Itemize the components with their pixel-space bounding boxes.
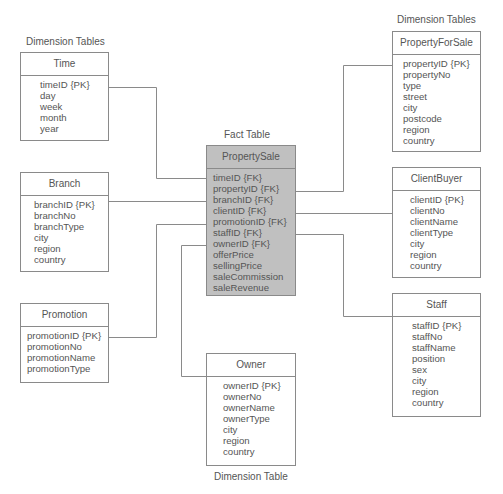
attribute: city (223, 424, 295, 435)
owner-relationship-line (182, 246, 207, 377)
attribute: ownerID {PK} (223, 380, 295, 391)
attribute: position (412, 353, 480, 364)
attribute: promotionID {PK} (27, 330, 108, 341)
attribute: promotionName (27, 352, 108, 363)
time-relationship-line (109, 88, 207, 179)
attribute: clientName (410, 216, 480, 227)
entity-title: PropertyForSale (393, 32, 480, 55)
attribute: city (403, 102, 480, 113)
attribute: branchNo (34, 210, 108, 221)
attribute: street (403, 91, 480, 102)
entity-title: Owner (207, 354, 295, 377)
attribute: region (412, 386, 480, 397)
fact-table-label: Fact Table (224, 129, 270, 140)
entity-title: Staff (393, 294, 480, 317)
attribute: sellingPrice (213, 260, 295, 271)
attribute: postcode (403, 113, 480, 124)
entity-staff[interactable]: Staff staffID {PK} staffNo staffName pos… (392, 293, 481, 417)
attribute: ownerID {FK} (213, 238, 295, 249)
attribute: promotionID {FK} (213, 216, 295, 227)
attribute: offerPrice (213, 249, 295, 260)
attribute: promotionNo (27, 341, 108, 352)
entity-title: PropertySale (207, 146, 295, 169)
attribute: clientID {FK} (213, 205, 295, 216)
attribute: year (40, 123, 108, 134)
attribute: clientNo (410, 205, 480, 216)
attribute: sex (412, 364, 480, 375)
entity-title: Time (21, 53, 108, 76)
entity-time[interactable]: Time timeID {PK} day week month year (20, 52, 109, 141)
attribute: country (223, 446, 295, 457)
entity-client-buyer[interactable]: ClientBuyer clientID {PK} clientNo clien… (392, 167, 481, 278)
attribute: propertyNo (403, 69, 480, 80)
attribute: city (410, 238, 480, 249)
attribute: saleCommission (213, 271, 295, 282)
attribute: propertyID {PK} (403, 58, 480, 69)
dimension-tables-label-right: Dimension Tables (397, 14, 476, 25)
attribute: staffID {FK} (213, 227, 295, 238)
staff-relationship-line (295, 235, 392, 317)
attribute: week (40, 101, 108, 112)
attribute: saleRevenue (213, 282, 295, 293)
attribute: month (40, 112, 108, 123)
attribute: timeID {PK} (40, 79, 108, 90)
dimension-tables-label-left: Dimension Tables (26, 36, 105, 47)
entity-title: ClientBuyer (393, 168, 480, 191)
entity-property-for-sale[interactable]: PropertyForSale propertyID {PK} property… (392, 31, 481, 152)
attribute: day (40, 90, 108, 101)
attribute: country (403, 135, 480, 146)
entity-title: Promotion (21, 304, 108, 327)
dimension-table-label-bottom: Dimension Table (214, 471, 288, 482)
attribute: region (410, 249, 480, 260)
attribute: clientType (410, 227, 480, 238)
attribute: staffName (412, 342, 480, 353)
attribute: region (223, 435, 295, 446)
promotion-relationship-line (109, 225, 207, 338)
attribute: propertyID {FK} (213, 183, 295, 194)
attribute: country (412, 397, 480, 408)
attribute: staffID {PK} (412, 320, 480, 331)
attribute: timeID {FK} (213, 172, 295, 183)
entity-promotion[interactable]: Promotion promotionID {PK} promotionNo p… (20, 303, 109, 383)
attribute: ownerName (223, 402, 295, 413)
attribute: country (410, 260, 480, 271)
attribute: region (34, 243, 108, 254)
attribute: ownerType (223, 413, 295, 424)
property-relationship-line (295, 66, 392, 192)
attribute: city (34, 232, 108, 243)
attribute: staffNo (412, 331, 480, 342)
attribute: branchType (34, 221, 108, 232)
attribute: promotionType (27, 363, 108, 374)
attribute: branchID {PK} (34, 199, 108, 210)
attribute: region (403, 124, 480, 135)
attribute: city (412, 375, 480, 386)
attribute: ownerNo (223, 391, 295, 402)
attribute: clientID {PK} (410, 194, 480, 205)
attribute: type (403, 80, 480, 91)
attribute: country (34, 254, 108, 265)
attribute: branchID {FK} (213, 194, 295, 205)
entity-branch[interactable]: Branch branchID {PK} branchNo branchType… (20, 172, 109, 272)
entity-owner[interactable]: Owner ownerID {PK} ownerNo ownerName own… (206, 353, 296, 466)
entity-property-sale[interactable]: PropertySale timeID {FK} propertyID {FK}… (206, 145, 296, 296)
entity-title: Branch (21, 173, 108, 196)
